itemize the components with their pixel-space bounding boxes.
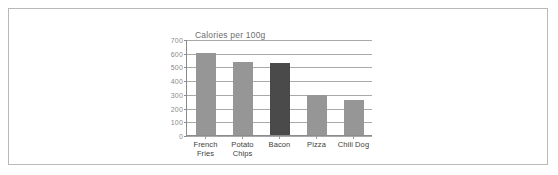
y-axis-tick-label: 100 bbox=[171, 119, 183, 126]
y-axis-tick-label: 0 bbox=[179, 133, 183, 140]
x-axis-label-chili-dog: Chili Dog bbox=[335, 140, 372, 158]
x-axis-tick-mark bbox=[279, 136, 280, 139]
bar-slot bbox=[188, 40, 225, 135]
bar-slot bbox=[262, 40, 299, 135]
y-axis-tick-mark bbox=[184, 122, 187, 123]
x-axis-tick-mark bbox=[316, 136, 317, 139]
y-axis-tick-mark bbox=[184, 40, 187, 41]
x-axis-tick-mark bbox=[205, 136, 206, 139]
chart-title: Calories per 100g bbox=[195, 30, 266, 40]
y-axis-tick-mark bbox=[184, 54, 187, 55]
y-axis-tick-mark bbox=[184, 95, 187, 96]
bar-potato-chips[interactable] bbox=[233, 62, 253, 135]
y-axis-tick-label: 400 bbox=[171, 78, 183, 85]
bar-chart: Calories per 100g 7006005004003002001000… bbox=[156, 29, 381, 161]
y-axis-tick-label: 300 bbox=[171, 91, 183, 98]
bar-slot bbox=[335, 40, 372, 135]
y-axis-tick-label: 500 bbox=[171, 64, 183, 71]
x-axis-tick-mark bbox=[353, 136, 354, 139]
y-axis-tick-mark bbox=[184, 81, 187, 82]
x-axis-label-bacon: Bacon bbox=[261, 140, 298, 158]
y-axis-tick-mark bbox=[184, 67, 187, 68]
y-axis-tick-label: 200 bbox=[171, 105, 183, 112]
y-axis-tick-label: 600 bbox=[171, 50, 183, 57]
y-axis-tick-label: 700 bbox=[171, 37, 183, 44]
x-axis-label-french-fries: FrenchFries bbox=[187, 140, 224, 158]
bar-series bbox=[188, 40, 372, 135]
bar-pizza[interactable] bbox=[307, 95, 327, 135]
bar-chili-dog[interactable] bbox=[344, 100, 364, 135]
bar-bacon[interactable] bbox=[270, 63, 290, 135]
bar-slot bbox=[298, 40, 335, 135]
x-axis-label-potato-chips: PotatoChips bbox=[224, 140, 261, 158]
x-axis-category-labels: FrenchFriesPotatoChipsBaconPizzaChili Do… bbox=[187, 140, 372, 158]
bar-french-fries[interactable] bbox=[196, 53, 216, 135]
bar-slot bbox=[225, 40, 262, 135]
y-axis-tick-mark bbox=[184, 109, 187, 110]
x-axis-label-pizza: Pizza bbox=[298, 140, 335, 158]
document-page: Calories per 100g 7006005004003002001000… bbox=[8, 8, 548, 165]
plot-area: Calories per 100g 7006005004003002001000 bbox=[186, 40, 372, 136]
x-axis-tick-mark bbox=[242, 136, 243, 139]
